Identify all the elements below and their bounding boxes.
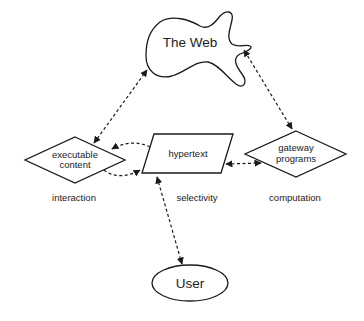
gateway-programs-node: gateway programs	[245, 131, 346, 177]
executable-content-node: executable content	[25, 137, 125, 183]
annotation-interaction: interaction	[52, 192, 96, 203]
edge-gateway-web	[244, 50, 292, 129]
user-node: User	[152, 265, 228, 301]
annotation-selectivity: selectivity	[176, 192, 217, 203]
gateway-label-line1: gateway	[278, 142, 314, 153]
hypertext-label: hypertext	[168, 148, 207, 159]
edge-executable-to-hypertext	[104, 170, 140, 176]
diagram-canvas: The Web executable content hypertext gat…	[0, 0, 364, 321]
edge-hypertext-to-executable	[112, 143, 150, 149]
annotation-computation: computation	[269, 192, 321, 203]
web-node: The Web	[146, 12, 251, 86]
web-label: The Web	[163, 35, 218, 50]
user-label: User	[176, 276, 205, 291]
hypertext-node: hypertext	[142, 134, 233, 173]
gateway-label-line2: programs	[276, 153, 316, 164]
edge-hypertext-gateway	[226, 163, 261, 164]
edge-hypertext-user	[157, 177, 182, 264]
executable-label-line2: content	[59, 159, 91, 170]
edge-executable-web	[94, 70, 147, 143]
